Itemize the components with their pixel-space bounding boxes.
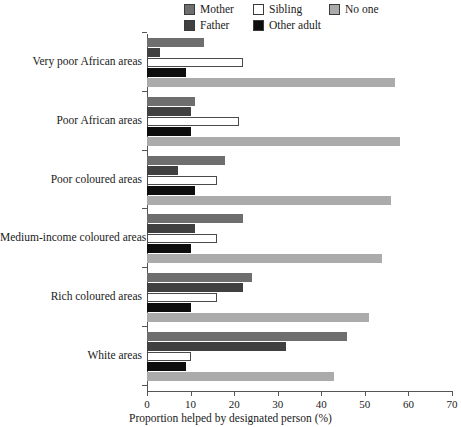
bar-mother bbox=[147, 214, 243, 223]
category-label-1: Poor African areas bbox=[0, 114, 142, 126]
bar-sibling bbox=[147, 117, 239, 126]
bar-father bbox=[147, 107, 191, 116]
x-tick-30 bbox=[278, 391, 279, 396]
bar-father bbox=[147, 224, 195, 233]
bar-row bbox=[147, 372, 452, 381]
bar-mother bbox=[147, 273, 252, 282]
x-tick-label-60: 60 bbox=[403, 398, 414, 410]
category-label-0: Very poor African areas bbox=[0, 55, 142, 67]
bar-group bbox=[147, 97, 452, 147]
bar-mother bbox=[147, 97, 195, 106]
bar-row bbox=[147, 234, 452, 243]
bar-sibling bbox=[147, 352, 191, 361]
bar-row bbox=[147, 342, 452, 351]
bar-mother bbox=[147, 156, 225, 165]
bar-sibling bbox=[147, 234, 217, 243]
bar-row bbox=[147, 127, 452, 136]
category-label-2: Poor coloured areas bbox=[0, 173, 142, 185]
category-label-4: Rich coloured areas bbox=[0, 290, 142, 302]
y-tick-5 bbox=[142, 326, 147, 327]
bar-row bbox=[147, 244, 452, 253]
bar-row bbox=[147, 273, 452, 282]
bar-group bbox=[147, 38, 452, 88]
bar-no-one bbox=[147, 78, 395, 87]
x-tick-50 bbox=[365, 391, 366, 396]
x-tick-0 bbox=[147, 391, 148, 396]
bar-other-adult bbox=[147, 244, 191, 253]
bar-row bbox=[147, 283, 452, 292]
bar-no-one bbox=[147, 372, 334, 381]
bar-row bbox=[147, 156, 452, 165]
bar-row bbox=[147, 58, 452, 67]
x-tick-label-20: 20 bbox=[229, 398, 240, 410]
bar-no-one bbox=[147, 313, 369, 322]
bar-row bbox=[147, 332, 452, 341]
y-tick-end bbox=[142, 385, 147, 386]
bar-other-adult bbox=[147, 68, 186, 77]
bar-father bbox=[147, 48, 160, 57]
bar-row bbox=[147, 48, 452, 57]
x-tick-20 bbox=[234, 391, 235, 396]
bar-chart: 010203040506070 Very poor African areasP… bbox=[0, 0, 461, 427]
x-tick-60 bbox=[408, 391, 409, 396]
bar-mother bbox=[147, 332, 347, 341]
y-tick-1 bbox=[142, 91, 147, 92]
bar-group bbox=[147, 273, 452, 323]
x-tick-label-70: 70 bbox=[447, 398, 458, 410]
x-tick-label-30: 30 bbox=[272, 398, 283, 410]
x-tick-label-40: 40 bbox=[316, 398, 327, 410]
bar-other-adult bbox=[147, 303, 191, 312]
bar-row bbox=[147, 97, 452, 106]
bar-group bbox=[147, 156, 452, 206]
bar-row bbox=[147, 362, 452, 371]
x-tick-40 bbox=[321, 391, 322, 396]
x-tick-label-10: 10 bbox=[185, 398, 196, 410]
bar-father bbox=[147, 166, 178, 175]
bar-father bbox=[147, 342, 286, 351]
y-tick-3 bbox=[142, 208, 147, 209]
bar-father bbox=[147, 283, 243, 292]
x-tick-label-50: 50 bbox=[359, 398, 370, 410]
y-tick-2 bbox=[142, 150, 147, 151]
y-tick-4 bbox=[142, 267, 147, 268]
bar-row bbox=[147, 176, 452, 185]
bar-sibling bbox=[147, 176, 217, 185]
bar-row bbox=[147, 303, 452, 312]
bar-row bbox=[147, 117, 452, 126]
x-tick-70 bbox=[452, 391, 453, 396]
bar-no-one bbox=[147, 254, 382, 263]
bar-row bbox=[147, 78, 452, 87]
bar-row bbox=[147, 352, 452, 361]
bar-row bbox=[147, 166, 452, 175]
bar-row bbox=[147, 313, 452, 322]
x-axis-line bbox=[147, 391, 453, 392]
bar-row bbox=[147, 68, 452, 77]
bar-group bbox=[147, 332, 452, 382]
bar-mother bbox=[147, 38, 204, 47]
bar-row bbox=[147, 186, 452, 195]
y-tick-0 bbox=[142, 32, 147, 33]
bar-no-one bbox=[147, 137, 400, 146]
bar-row bbox=[147, 254, 452, 263]
bar-other-adult bbox=[147, 127, 191, 136]
x-tick-10 bbox=[191, 391, 192, 396]
bar-row bbox=[147, 293, 452, 302]
bar-other-adult bbox=[147, 362, 186, 371]
x-tick-label-0: 0 bbox=[144, 398, 150, 410]
bar-no-one bbox=[147, 196, 391, 205]
category-label-3: Medium-income coloured areas bbox=[0, 231, 142, 243]
bar-row bbox=[147, 224, 452, 233]
bar-other-adult bbox=[147, 186, 195, 195]
bar-sibling bbox=[147, 58, 243, 67]
bar-group bbox=[147, 214, 452, 264]
category-label-5: White areas bbox=[0, 349, 142, 361]
bar-sibling bbox=[147, 293, 217, 302]
bar-row bbox=[147, 137, 452, 146]
bar-row bbox=[147, 38, 452, 47]
x-axis-title: Proportion helped by designated person (… bbox=[0, 412, 461, 424]
bar-row bbox=[147, 214, 452, 223]
bar-row bbox=[147, 196, 452, 205]
bar-row bbox=[147, 107, 452, 116]
